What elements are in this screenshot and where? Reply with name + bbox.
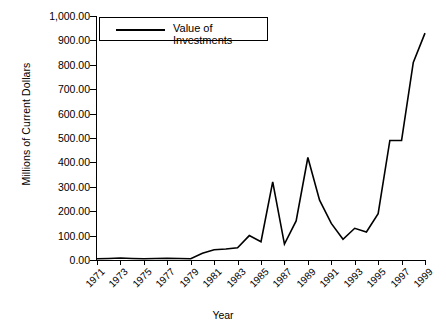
legend-swatch-line (116, 29, 165, 31)
legend-label: Value of Investments (173, 22, 267, 46)
legend: Value of Investments (99, 17, 268, 41)
series-path (97, 33, 425, 259)
series-line-value-of-investments (0, 0, 446, 331)
chart-container: Millions of Current Dollars Year 0.00100… (0, 0, 446, 331)
